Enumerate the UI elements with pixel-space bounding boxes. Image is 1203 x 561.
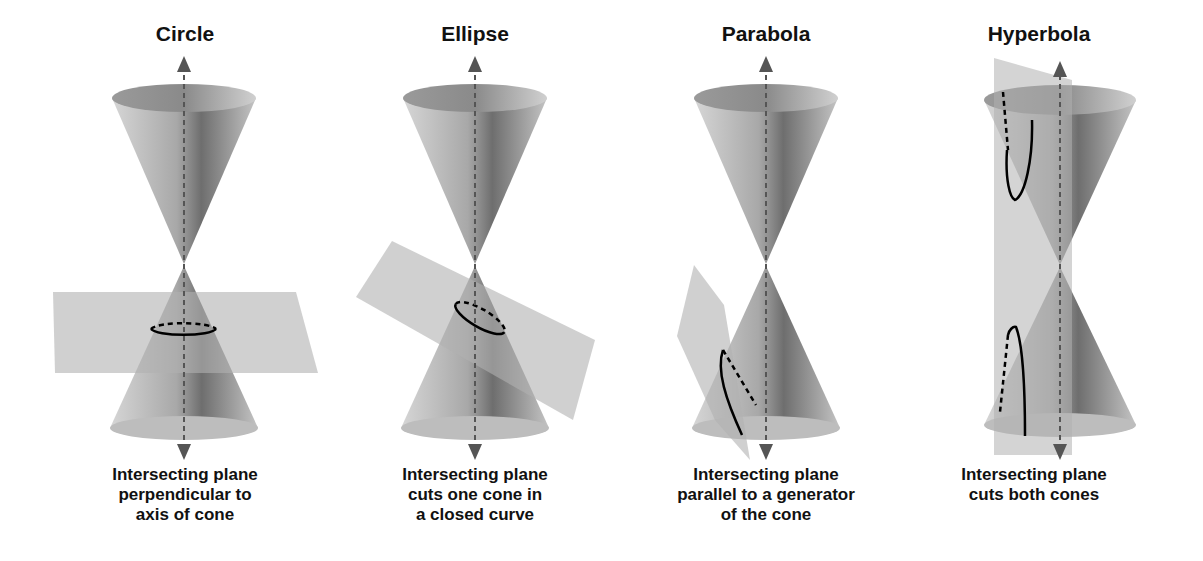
panel-hyperbola: Hyperbola Intersecting plane cuts both c… — [875, 0, 1203, 561]
panel-caption: Intersecting plane cuts both cones — [865, 465, 1203, 505]
